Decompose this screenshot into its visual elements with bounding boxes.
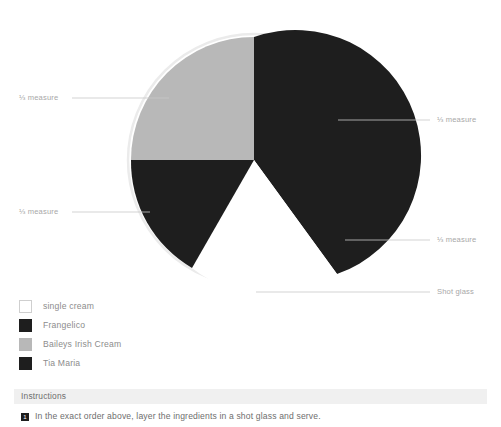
legend-swatch-icon — [19, 300, 32, 313]
callout-top-right-label: ⅓ measure — [437, 116, 476, 124]
legend-item-frangelico[interactable]: Frangelico — [19, 316, 249, 335]
pie-chart-svg — [0, 0, 501, 300]
callout-shot-glass-label: Shot glass — [437, 288, 474, 296]
legend-item-label: Frangelico — [43, 321, 85, 330]
callout-bottom-right-label: ⅓ measure — [437, 236, 476, 244]
legend-swatch-icon — [19, 338, 32, 351]
instructions-header: Instructions — [14, 389, 487, 404]
chart-legend: single cream Frangelico Baileys Irish Cr… — [19, 297, 249, 373]
pie-chart-area: ⅓ measure ⅓ measure ⅓ measure ⅓ measure … — [0, 0, 501, 300]
legend-item-single-cream[interactable]: single cream — [19, 297, 249, 316]
legend-item-baileys-irish-cream[interactable]: Baileys Irish Cream — [19, 335, 249, 354]
step-text: In the exact order above, layer the ingr… — [35, 412, 321, 421]
legend-item-label: Baileys Irish Cream — [43, 340, 121, 349]
callout-top-left-label: ⅓ measure — [19, 94, 58, 102]
callout-bottom-left-label: ⅓ measure — [19, 208, 58, 216]
step-number-badge: 1 — [21, 413, 29, 421]
legend-swatch-icon — [19, 357, 32, 370]
instruction-step-row: 1 In the exact order above, layer the in… — [14, 412, 487, 421]
legend-item-label: single cream — [43, 302, 94, 311]
legend-item-label: Tia Maria — [43, 359, 80, 368]
legend-swatch-icon — [19, 319, 32, 332]
pie-slice-baileys-irish-cream[interactable] — [131, 37, 254, 160]
instructions-section: Instructions 1 In the exact order above,… — [14, 389, 487, 421]
legend-item-tia-maria[interactable]: Tia Maria — [19, 354, 249, 373]
